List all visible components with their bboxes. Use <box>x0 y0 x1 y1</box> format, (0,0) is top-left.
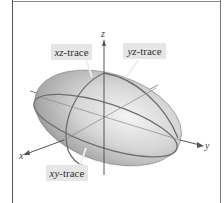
x-arrow-icon <box>23 150 30 155</box>
yz-trace-label: yz-trace <box>123 43 166 59</box>
xz-trace-label: xz-trace <box>51 44 92 60</box>
y-axis-label: y <box>205 140 209 151</box>
ellipsoid-figure: z x y xz-trace yz-trace xy-trace <box>0 0 224 203</box>
xy-trace-label: xy-trace <box>46 165 88 181</box>
z-arrow-icon <box>102 39 106 46</box>
x-axis-label: x <box>19 150 23 161</box>
ellipsoid-graphic <box>0 0 224 203</box>
y-arrow-icon <box>197 142 204 148</box>
z-axis-label: z <box>101 28 105 39</box>
x-axis <box>26 140 64 154</box>
